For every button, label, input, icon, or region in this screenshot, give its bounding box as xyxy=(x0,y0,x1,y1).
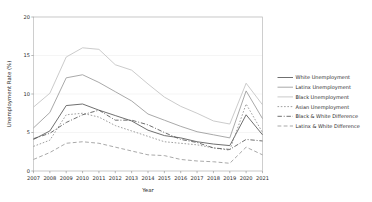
xtick-label-2021: 2021 xyxy=(256,175,269,181)
chart-figure: 05101520 2007200820092010201120122013201… xyxy=(0,0,372,202)
xtick-label-2010: 2010 xyxy=(76,175,89,181)
chart-legend: White UnemploymentLatinx UnemploymentBla… xyxy=(278,74,360,128)
legend-label-4: Black & White Difference xyxy=(296,113,359,119)
xtick-label-2016: 2016 xyxy=(174,175,187,181)
xtick-label-2013: 2013 xyxy=(125,175,138,181)
xtick-label-2012: 2012 xyxy=(109,175,122,181)
y-axis-title: Unemployment Rate (%) xyxy=(6,61,13,128)
series-line-black-unemployment xyxy=(34,48,263,124)
legend-label-0: White Unemployment xyxy=(296,74,351,81)
series-line-latinx-white-difference xyxy=(34,142,263,164)
xtick-label-2007: 2007 xyxy=(27,175,40,181)
gridlines xyxy=(34,17,263,171)
xtick-label-2008: 2008 xyxy=(43,175,56,181)
ytick-label-10: 10 xyxy=(23,91,29,97)
legend-label-1: Latinx Unemployment xyxy=(296,84,351,91)
x-axis-title: Year xyxy=(141,187,154,193)
line-chart: 05101520 2007200820092010201120122013201… xyxy=(0,0,372,202)
series-line-white-unemployment xyxy=(34,104,263,146)
xtick-label-2017: 2017 xyxy=(191,175,204,181)
ytick-label-0: 0 xyxy=(27,168,30,174)
xtick-label-2011: 2011 xyxy=(92,175,105,181)
xtick-label-2018: 2018 xyxy=(207,175,220,181)
ytick-label-15: 15 xyxy=(23,52,29,58)
x-axis-tick-labels: 2007200820092010201120122013201420152016… xyxy=(27,175,269,181)
legend-label-5: Latinx & White Difference xyxy=(296,123,360,129)
xtick-label-2015: 2015 xyxy=(158,175,171,181)
xtick-label-2014: 2014 xyxy=(142,175,155,181)
y-axis-tick-labels: 05101520 xyxy=(23,14,29,174)
xtick-label-2009: 2009 xyxy=(60,175,73,181)
series-lines xyxy=(34,48,263,164)
legend-label-3: Asian Unemployment xyxy=(296,104,350,111)
ytick-label-20: 20 xyxy=(23,14,29,20)
xtick-label-2020: 2020 xyxy=(240,175,253,181)
ytick-label-5: 5 xyxy=(27,129,30,135)
xtick-label-2019: 2019 xyxy=(223,175,236,181)
legend-label-2: Black Unemployment xyxy=(296,94,350,101)
